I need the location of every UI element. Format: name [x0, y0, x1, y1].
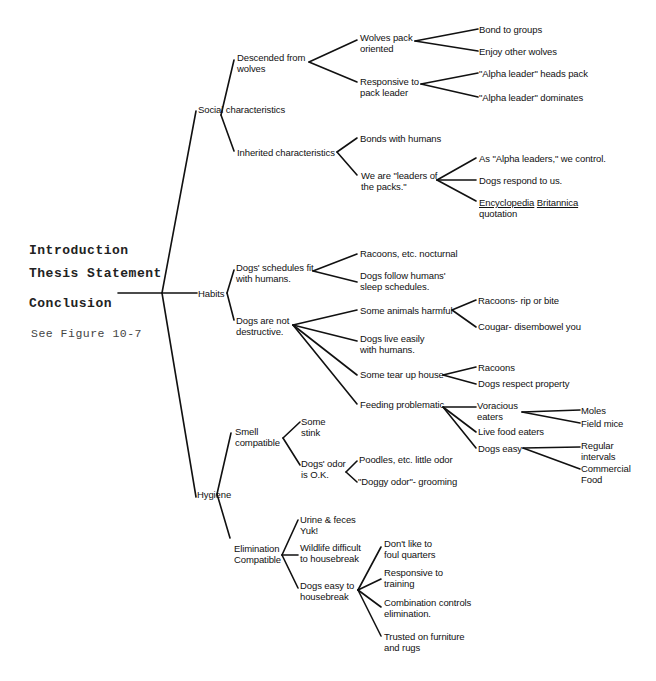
node-racoons-rip-bite: Racoons- rip or bite — [478, 295, 559, 306]
node-racoons-nocturnal: Racoons, etc. nocturnal — [360, 248, 458, 259]
node-smell-compatible: Smellcompatible — [235, 426, 280, 448]
node-dogs-easy-housebreak: Dogs easy tohousebreak — [300, 580, 354, 602]
node-descended-from-wolves: Descended fromwolves — [237, 52, 305, 74]
node-regular-intervals: Regularintervals — [581, 440, 615, 462]
node-doggy-odor-grooming: "Doggy odor"- grooming — [358, 476, 457, 487]
thesis-statement-label: Thesis Statement — [29, 266, 162, 281]
node-dogs-odor-ok: Dogs' odoris O.K. — [301, 458, 346, 480]
node-commercial-food: CommercialFood — [581, 463, 631, 485]
node-cougar-disembowel: Cougar- disembowel you — [478, 321, 581, 332]
node-some-animals-harmful: Some animals harmful — [360, 305, 453, 316]
node-feeding-problematic: Feeding problematic — [360, 399, 444, 410]
node-dogs-live-easily: Dogs live easilywith humans. — [360, 333, 424, 355]
node-bond-to-groups: Bond to groups — [479, 24, 542, 35]
node-responsive-training: Responsive totraining — [384, 567, 443, 589]
node-bonds-with-humans: Bonds with humans — [360, 133, 441, 144]
node-poodles-little-odor: Poodles, etc. little odor — [359, 454, 453, 465]
figure-reference: See Figure 10-7 — [31, 327, 142, 340]
node-voracious-eaters: Voraciouseaters — [477, 400, 518, 422]
node-dogs-respond: Dogs respond to us. — [479, 175, 562, 186]
node-dogs-respect-property: Dogs respect property — [478, 378, 569, 389]
node-dogs-schedules: Dogs' schedules fitwith humans. — [236, 262, 314, 284]
node-racoons: Racoons — [478, 362, 515, 373]
essay-outline-tree-diagram: Introduction Thesis Statement Conclusion… — [0, 0, 656, 681]
node-combination-controls: Combination controlselimination. — [384, 597, 471, 619]
node-dogs-follow-sleep: Dogs follow humans'sleep schedules. — [360, 270, 445, 292]
node-live-food-eaters: Live food eaters — [478, 426, 544, 437]
node-urine-feces: Urine & fecesYuk! — [300, 514, 356, 536]
node-social-characteristics: Social characteristics — [198, 104, 285, 115]
node-dont-like-foul: Don't like tofoul quarters — [384, 538, 436, 560]
node-leaders-of-packs: We are "leaders ofthe packs." — [361, 170, 437, 192]
node-field-mice: Field mice — [581, 418, 623, 429]
node-trusted-furniture: Trusted on furnitureand rugs — [384, 631, 465, 653]
node-some-tear-up-house: Some tear up house — [360, 369, 444, 380]
conclusion-label: Conclusion — [29, 296, 112, 311]
node-inherited-characteristics: Inherited characteristics — [237, 147, 335, 158]
node-alpha-leaders-control: As "Alpha leaders," we control. — [479, 153, 606, 164]
node-enjoy-other-wolves: Enjoy other wolves — [479, 46, 557, 57]
node-dogs-not-destructive: Dogs are notdestructive. — [236, 315, 289, 337]
introduction-label: Introduction — [29, 243, 129, 258]
node-alpha-dominates: "Alpha leader" dominates — [479, 92, 583, 103]
node-alpha-heads-pack: "Alpha leader" heads pack — [479, 68, 588, 79]
node-habits: Habits — [198, 288, 224, 299]
node-hygiene: Hygiene — [197, 489, 231, 500]
node-wolves-pack-oriented: Wolves packoriented — [360, 32, 413, 54]
node-wildlife-difficult: Wildlife difficultto housebreak — [300, 542, 361, 564]
node-elimination-compatible: EliminationCompatible — [234, 543, 281, 565]
node-moles: Moles — [581, 405, 606, 416]
node-dogs-easy: Dogs easy — [478, 443, 522, 454]
node-encyclopedia-quotation: Encyclopedia Britannicaquotation — [479, 197, 578, 219]
node-some-stink: Somestink — [301, 416, 325, 438]
node-responsive-to-pack-leader: Responsive topack leader — [360, 76, 419, 98]
